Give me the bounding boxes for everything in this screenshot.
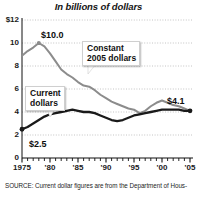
x-tick-1985: '85 bbox=[65, 164, 91, 172]
source-divider bbox=[4, 178, 193, 179]
y-tick-6: 6 bbox=[0, 85, 19, 93]
y-tick-0: 0 bbox=[0, 154, 19, 162]
x-tick-2005: '05 bbox=[177, 164, 197, 172]
x-tick-1990: '90 bbox=[93, 164, 119, 172]
callout-constant-dollars: Constant 2005 dollars bbox=[82, 41, 140, 66]
value-label-end: $4.1 bbox=[167, 96, 185, 106]
callout-current-line2: dollars bbox=[30, 99, 61, 109]
x-tick-1995: '95 bbox=[121, 164, 147, 172]
y-tick-12: $12 bbox=[0, 16, 19, 24]
source-note: SOURCE: Current dollar figures are from … bbox=[5, 182, 195, 201]
y-tick-4: 4 bbox=[0, 108, 19, 116]
value-label-peak: $10.0 bbox=[41, 30, 64, 40]
x-axis bbox=[22, 158, 193, 163]
callout-constant-line2: 2005 dollars bbox=[87, 54, 136, 64]
x-tick-1980: '80 bbox=[37, 164, 63, 172]
value-label-start-current: $2.5 bbox=[29, 139, 47, 149]
chart-figure: In billions of dollars $121086420 1975'8… bbox=[0, 0, 197, 201]
callout-current-dollars: Current dollars bbox=[25, 86, 65, 111]
x-tick-2000: '00 bbox=[149, 164, 175, 172]
y-tick-8: 8 bbox=[0, 62, 19, 70]
x-tick-1975: 1975 bbox=[9, 164, 35, 172]
y-tick-10: 10 bbox=[0, 39, 19, 47]
y-tick-2: 2 bbox=[0, 131, 19, 139]
